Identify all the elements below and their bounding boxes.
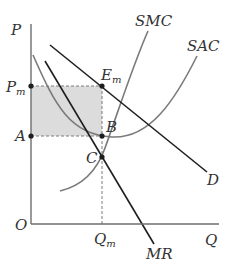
a-dot bbox=[28, 133, 33, 138]
pm-dot bbox=[28, 83, 33, 88]
x-axis-label: Q bbox=[205, 231, 217, 249]
em-label-sub: m bbox=[112, 74, 121, 85]
qm-label: Qm bbox=[94, 230, 116, 249]
c-dot bbox=[99, 154, 104, 159]
pm-label-sub: m bbox=[16, 86, 25, 97]
em-dot bbox=[99, 83, 104, 88]
qm-label-main: Q bbox=[94, 230, 106, 248]
monopoly-diagram: P Q O Pm A Qm Em B C SMC SAC D MR bbox=[0, 0, 228, 268]
b-dot bbox=[99, 133, 104, 138]
demand-label: D bbox=[206, 171, 219, 189]
em-label-main: E bbox=[100, 66, 112, 84]
profit-area bbox=[31, 86, 102, 136]
pm-label: Pm bbox=[5, 78, 26, 97]
smc-label: SMC bbox=[135, 12, 173, 30]
mr-label: MR bbox=[145, 245, 173, 263]
b-label: B bbox=[105, 118, 117, 136]
a-label: A bbox=[13, 127, 26, 145]
sac-label: SAC bbox=[187, 37, 220, 55]
y-axis-label: P bbox=[10, 21, 22, 39]
qm-label-sub: m bbox=[106, 238, 115, 249]
c-label: C bbox=[86, 149, 98, 167]
em-label: Em bbox=[100, 66, 121, 85]
origin-label: O bbox=[15, 216, 27, 234]
